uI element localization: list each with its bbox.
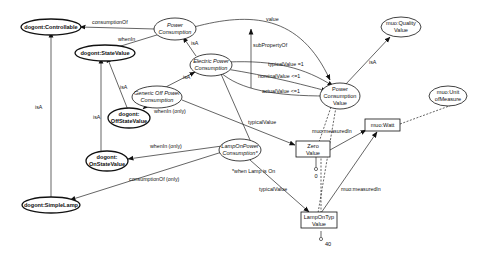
edge-label-when-in-only-off: whenIn (only) <box>154 108 186 114</box>
svg-text:Consumption*: Consumption* <box>222 150 258 156</box>
svg-text:Value: Value <box>394 27 408 33</box>
node-simple-lamp[interactable]: dogont:SimpleLamp <box>22 197 80 213</box>
svg-text:Generic Off Power: Generic Off Power <box>134 90 181 96</box>
edge-label-isa-controllable: isA <box>35 104 43 110</box>
svg-text:0: 0 <box>314 173 317 179</box>
svg-text:Consumption: Consumption <box>141 97 174 103</box>
node-state-value[interactable]: dogont:StateValue <box>75 45 135 61</box>
node-watt[interactable]: muo:Watt <box>365 119 400 131</box>
node-electric-power-consumption[interactable]: Electric Power Consumption <box>190 54 232 76</box>
edge-label-consumption-of: consumptionOf <box>92 19 128 25</box>
svg-text:Power: Power <box>332 86 348 92</box>
edge-label-isa-quality: isA <box>369 59 377 65</box>
edge-dashed-watt-unit <box>400 105 452 124</box>
edge-label-isa-off: isA <box>120 84 128 90</box>
node-generic-off-power-consumption[interactable]: Generic Off Power Consumption <box>132 86 182 108</box>
svg-text:muo:Quality: muo:Quality <box>386 20 416 26</box>
svg-text:40: 40 <box>325 241 331 247</box>
svg-text:dogont:StateValue: dogont:StateValue <box>80 50 129 56</box>
edge-label-typical-value-off: typicalValue <box>248 119 276 125</box>
node-zero-value[interactable]: Zero Value <box>296 141 330 157</box>
svg-text:dogont:Controllable: dogont:Controllable <box>24 24 77 30</box>
node-lamp-on-typ-value[interactable]: LampOnTyp Value <box>301 212 337 228</box>
edge-label-consumption-of-only: consumptionOf (only) <box>129 176 180 182</box>
edge-label-typical-value-eq: typicalValue =1 <box>268 61 304 67</box>
edge-dashed-pcv-zero <box>318 107 331 145</box>
edge-label-when-in: whenIn <box>118 36 135 42</box>
svg-text:Consumption: Consumption <box>195 65 228 71</box>
edge-label-measured-in-lamp: muo:measuredIn <box>341 186 381 192</box>
svg-text:Value: Value <box>312 221 326 227</box>
node-literal-zero: 0 <box>314 167 317 179</box>
svg-text:dogont:: dogont: <box>97 154 118 160</box>
node-lamp-on-power-consumption[interactable]: LampOnPower Consumption* <box>219 139 261 161</box>
svg-text:OnStateValue: OnStateValue <box>89 161 125 167</box>
edge-typical-value-off <box>182 100 295 145</box>
edge-label-when-in-only-on: whenIn (only) <box>150 143 182 149</box>
node-controllable[interactable]: dogont:Controllable <box>21 19 81 35</box>
edge-label-isa-on: isA <box>93 114 101 120</box>
svg-text:dogont:SimpleLamp: dogont:SimpleLamp <box>24 202 79 208</box>
svg-text:Consumption: Consumption <box>324 93 357 99</box>
edge-label-actual-value: actualValue <=1 <box>262 88 300 94</box>
edge-consumption-of <box>80 27 155 29</box>
svg-text:muo:Unit: muo:Unit <box>437 89 460 95</box>
svg-text:Electric Power: Electric Power <box>193 58 230 64</box>
edge-label-sub-property-of: subPropertyOf <box>253 42 288 48</box>
svg-text:dogont:: dogont: <box>119 111 140 117</box>
node-quality-value[interactable]: muo:Quality Value <box>381 17 421 37</box>
svg-text:Power: Power <box>167 22 184 28</box>
svg-text:LampOnTyp: LampOnTyp <box>304 214 334 220</box>
nodes: dogont:Controllable dogont:StateValue Po… <box>21 17 467 247</box>
svg-text:OffStateValue: OffStateValue <box>111 118 147 124</box>
edge-label-nominal-value: nominalValue <=1 <box>258 73 300 79</box>
node-power-consumption-value[interactable]: Power Consumption Value <box>320 83 360 109</box>
node-on-state-value[interactable]: dogont: OnStateValue <box>86 151 128 171</box>
svg-text:Value: Value <box>306 150 320 156</box>
svg-text:Zero: Zero <box>307 143 319 149</box>
svg-text:muo:Watt: muo:Watt <box>371 122 395 128</box>
node-literal-forty: 40 <box>319 237 331 247</box>
ontology-diagram: consumptionOf whenIn value subPropertyOf… <box>0 0 488 260</box>
edge-label-isa-electric: isA <box>191 40 199 46</box>
svg-text:Consumption: Consumption <box>159 29 192 35</box>
edge-label-isa-generic: isA <box>183 74 191 80</box>
edge-label-typical-value-lamp: typicalValue <box>259 186 287 192</box>
node-power-consumption[interactable]: Power Consumption <box>154 18 196 40</box>
svg-text:ofMeasure: ofMeasure <box>435 96 461 102</box>
annotation-when-lamp-on: *when Lamp is On <box>232 168 275 174</box>
edge-label-value: value <box>266 16 279 22</box>
node-off-state-value[interactable]: dogont: OffStateValue <box>108 108 150 128</box>
svg-text:Value: Value <box>333 100 347 106</box>
edge-electric-lamp-line <box>221 74 250 140</box>
edge-isa-quality <box>345 37 390 85</box>
svg-text:LampOnPower: LampOnPower <box>221 143 259 149</box>
node-unit-of-measure[interactable]: muo:Unit ofMeasure <box>429 86 467 106</box>
